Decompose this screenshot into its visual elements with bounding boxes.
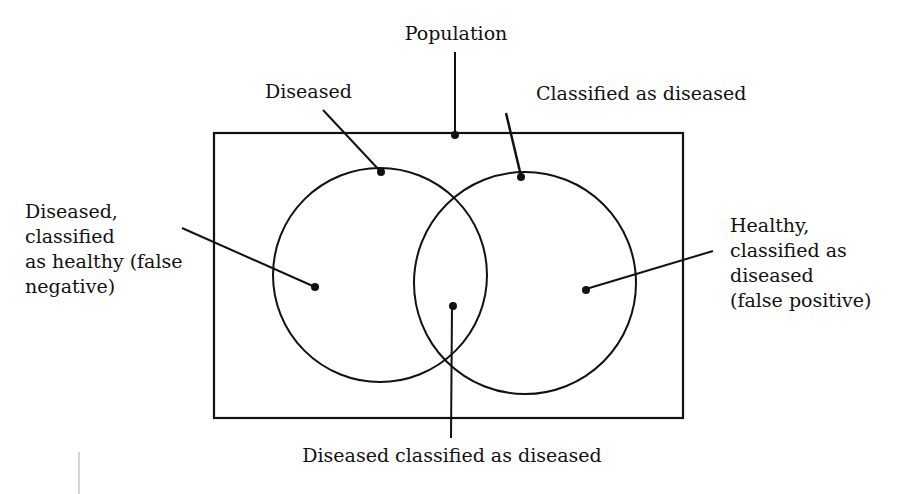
true-positive-leader-line [451, 306, 452, 438]
false-positive-label-line-3: diseased [730, 264, 814, 286]
false-negative-label-line-1: Diseased, [25, 200, 118, 222]
false-positive-label-line-4: (false positive) [730, 289, 871, 311]
diseased-leader-line [323, 110, 381, 172]
diseased-circle [273, 168, 487, 382]
false-negative-leader-line [182, 228, 315, 287]
false-positive-label-line-2: classified as [730, 239, 847, 261]
venn-diagram: Population Diseased Classified as diseas… [0, 0, 916, 494]
classified-as-diseased-label: Classified as diseased [536, 82, 746, 104]
true-positive-label: Diseased classified as diseased [302, 444, 601, 466]
true-positive-leader-dot [449, 302, 457, 310]
false-negative-label-line-3: as healthy (false [25, 250, 183, 272]
false-positive-leader-dot [582, 286, 590, 294]
classified-leader-dot [517, 173, 525, 181]
false-negative-label-line-4: negative) [25, 275, 115, 297]
false-positive-label-line-1: Healthy, [730, 214, 809, 236]
diseased-leader-dot [377, 168, 385, 176]
diseased-label: Diseased [265, 80, 352, 102]
false-negative-leader-dot [311, 283, 319, 291]
classified-leader-line [506, 113, 521, 176]
population-rectangle [214, 133, 683, 418]
false-positive-leader-line [586, 251, 713, 289]
false-negative-label-line-2: classified [25, 225, 115, 247]
population-label: Population [405, 22, 508, 44]
population-leader-dot [451, 131, 459, 139]
